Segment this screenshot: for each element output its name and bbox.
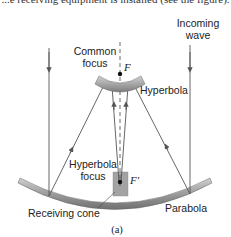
incoming-wave-label-line1: Incoming	[168, 17, 228, 29]
parabola-label: Parabola	[165, 202, 207, 214]
focus-F-prime-label: F′	[130, 174, 139, 186]
receiving-cone-label: Receiving cone	[28, 207, 100, 219]
focus-point-F	[118, 72, 122, 76]
common-focus-label-line2: focus	[70, 57, 120, 69]
hyperbola-focus-label: Hyperbola focus	[66, 158, 120, 182]
hyperbola-focus-label-line1: Hyperbola	[66, 158, 120, 170]
common-focus-label: Common focus	[70, 45, 120, 69]
focus-F-label: F	[124, 61, 131, 73]
incoming-wave-label: Incoming wave	[168, 17, 228, 41]
subfigure-label: (a)	[105, 224, 129, 236]
hyperbola-focus-label-line2: focus	[66, 170, 120, 182]
hyperbola-label: Hyperbola	[140, 84, 188, 96]
common-focus-label-line1: Common	[70, 45, 120, 57]
incoming-wave-label-line2: wave	[168, 29, 228, 41]
